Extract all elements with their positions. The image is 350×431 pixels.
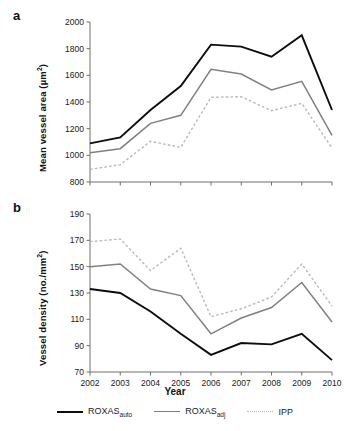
data-series-roxasauto: [90, 289, 332, 360]
legend-item-ipp: IPP: [247, 407, 293, 417]
y-tick-label: 90: [75, 341, 85, 351]
panel-a-plot: 800100012001400160018002000: [0, 0, 350, 200]
data-series-ipp: [90, 239, 332, 317]
x-axis-title: Year: [0, 386, 350, 397]
data-series-roxasadj: [90, 264, 332, 334]
y-tick-label: 170: [70, 235, 84, 245]
legend-line-swatch-icon: [247, 411, 273, 412]
y-tick-label: 800: [70, 177, 84, 187]
legend-label: ROXASadj: [185, 406, 225, 418]
legend-label: IPP: [278, 407, 293, 417]
data-series-roxasadj: [90, 69, 332, 152]
panel-b: b Vessel density (no./mm2) 7090110130150…: [0, 196, 350, 396]
y-tick-label: 1200: [65, 124, 84, 134]
legend-label: ROXASauto: [88, 406, 132, 418]
y-tick-label: 130: [70, 288, 84, 298]
legend-label-subscript: adj: [217, 411, 226, 418]
legend-label-subscript: auto: [120, 411, 133, 418]
figure-container: a Mean vessel area (µm2) 800100012001400…: [0, 0, 350, 431]
y-tick-label: 150: [70, 262, 84, 272]
legend-item-roxas-auto: ROXASauto: [57, 406, 132, 418]
legend-item-roxas-adj: ROXASadj: [154, 406, 225, 418]
y-tick-label: 1400: [65, 97, 84, 107]
panel-b-plot: 7090110130150170190200220032004200520062…: [0, 196, 350, 396]
legend-line-swatch-icon: [154, 411, 180, 412]
y-tick-label: 190: [70, 209, 84, 219]
legend: ROXASautoROXASadjIPP: [0, 406, 350, 418]
y-tick-label: 1000: [65, 150, 84, 160]
y-tick-label: 1800: [65, 44, 84, 54]
data-series-roxasauto: [90, 35, 332, 143]
y-tick-label: 2000: [65, 17, 84, 27]
panel-a: a Mean vessel area (µm2) 800100012001400…: [0, 0, 350, 200]
y-tick-label: 1600: [65, 70, 84, 80]
y-tick-label: 110: [70, 314, 84, 324]
legend-line-swatch-icon: [57, 411, 83, 413]
y-tick-label: 70: [75, 367, 85, 377]
